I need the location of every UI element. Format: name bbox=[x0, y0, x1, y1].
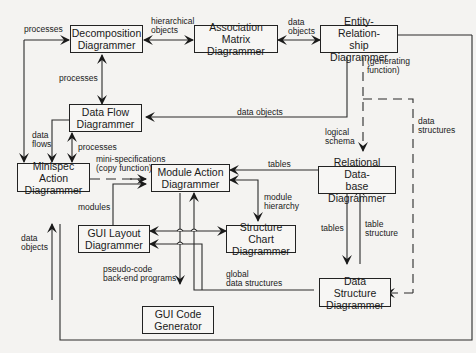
node-label: Generator bbox=[154, 320, 201, 332]
edge-label-pseudo-code: pseudo-codeback-end programs bbox=[103, 265, 176, 283]
edge-label-data-objects: dataobjects bbox=[21, 234, 48, 252]
diagram-canvas: DecompositionDiagrammer AssociationMatri… bbox=[0, 0, 476, 353]
minispec-action-diagrammer-node[interactable]: Minispec ActionDiagrammer bbox=[17, 163, 90, 192]
entity-relationship-diagrammer-node[interactable]: Entity-Relation-ship Diagrammer bbox=[320, 25, 398, 53]
node-label: Relational Data- bbox=[334, 156, 381, 180]
edge-label-data-objects: dataobjects bbox=[288, 18, 315, 36]
node-label: Diagrammer bbox=[326, 299, 384, 311]
edge-label-data-structures: datastructures bbox=[418, 117, 455, 135]
association-matrix-diagrammer-node[interactable]: AssociationMatrix Diagrammer bbox=[194, 25, 278, 53]
node-label: Diagrammer bbox=[232, 245, 290, 257]
edge-label-tables: tables bbox=[268, 160, 291, 169]
gui-code-generator-node[interactable]: GUI CodeGenerator bbox=[142, 306, 214, 334]
edge-label-mini-specifications: mini-specifications(copy function) bbox=[96, 155, 165, 173]
edge-label-logical-schema: logicalschema bbox=[325, 128, 355, 146]
edge-label-module-hierarchy: modulehierarchy bbox=[264, 193, 299, 211]
node-label: Module Action bbox=[158, 166, 224, 178]
edge-label-processes: processes bbox=[78, 143, 117, 152]
node-label: Data Flow bbox=[82, 106, 129, 118]
node-label: Structure Chart bbox=[240, 221, 283, 245]
node-label: GUI Layout bbox=[87, 227, 140, 239]
edge-label-processes: processes bbox=[59, 74, 98, 83]
node-label: Diagrammer bbox=[77, 118, 135, 130]
edge-label-generating-function: (generatingfunction) bbox=[367, 57, 410, 75]
relational-database-diagrammer-node[interactable]: Relational Data-base Diagrammer bbox=[318, 166, 396, 194]
node-label: Diagrammer bbox=[162, 178, 220, 190]
decomposition-diagrammer-node[interactable]: DecompositionDiagrammer bbox=[70, 25, 143, 53]
node-label: Matrix Diagrammer bbox=[207, 33, 265, 57]
edge-label-global-data-structures: globaldata structures bbox=[226, 270, 282, 288]
edge-label-hierarchical-objects: hierarchicalobjects bbox=[151, 17, 194, 35]
node-label: Association bbox=[209, 21, 263, 33]
edge-label-data-objects: data objects bbox=[237, 108, 283, 117]
edge-label-data-flows: dataflows bbox=[32, 131, 51, 149]
node-label: GUI Code bbox=[155, 308, 202, 320]
gui-layout-diagrammer-node[interactable]: GUI LayoutDiagrammer bbox=[78, 225, 150, 253]
node-label: Diagrammer bbox=[78, 39, 136, 51]
node-label: Diagrammer bbox=[85, 239, 143, 251]
edge-label-table-structure: tablestructure bbox=[365, 220, 398, 238]
node-label: Entity-Relation- bbox=[338, 15, 380, 39]
node-label: Diagrammer bbox=[25, 184, 83, 196]
edge-label-processes: processes bbox=[24, 25, 63, 34]
node-label: Data Structure bbox=[334, 275, 377, 299]
structure-chart-diagrammer-node[interactable]: Structure ChartDiagrammer bbox=[226, 225, 296, 253]
edge-label-modules: modules bbox=[78, 203, 110, 212]
data-structure-diagrammer-node[interactable]: Data StructureDiagrammer bbox=[319, 278, 391, 307]
node-label: Decomposition bbox=[72, 27, 141, 39]
node-label: base Diagrammer bbox=[328, 180, 386, 204]
edge-label-tables: tables bbox=[321, 224, 344, 233]
data-flow-diagrammer-node[interactable]: Data FlowDiagrammer bbox=[69, 104, 142, 132]
node-label: Minispec Action bbox=[33, 160, 74, 184]
